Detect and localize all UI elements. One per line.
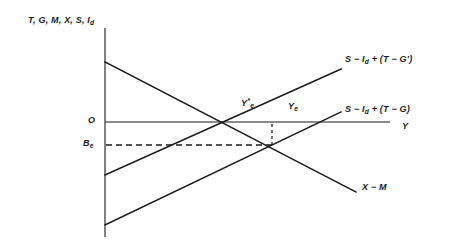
y-axis-caption-subscript: d: [90, 19, 94, 26]
balance-label: Be: [83, 139, 94, 148]
balance-label-base: B: [83, 138, 90, 148]
curve-label-s-id-t-gprime: S − Id + (T − G′): [345, 55, 412, 64]
y-axis-caption: T, G, M, X, S, Id: [28, 16, 94, 25]
curve-gp-prefix: S − I: [345, 54, 365, 64]
x-axis-label: Y: [402, 122, 408, 131]
curve-label-s-id-t-g: S − Id + (T − G): [345, 105, 410, 114]
curve-g-prefix: S − I: [345, 104, 365, 114]
diagram-canvas: [0, 0, 461, 251]
curve-s-id-t-g: [105, 112, 341, 225]
curve-x-minus-m: [105, 62, 356, 192]
economics-diagram: T, G, M, X, S, Id O Be Y Y*e Ye S − Id +…: [0, 0, 461, 251]
equilibrium-label-y-e: Ye: [288, 102, 298, 111]
equilibrium-label-y-star-e: Y*e: [241, 99, 254, 108]
y-star-subscript: e: [250, 102, 254, 109]
y-axis-caption-base: T, G, M, X, S, I: [28, 15, 90, 25]
balance-label-subscript: e: [90, 142, 94, 149]
curve-gp-suffix: + (T − G′): [369, 54, 412, 64]
curve-gp-subscript: d: [365, 58, 369, 65]
curve-g-suffix: + (T − G): [369, 104, 410, 114]
origin-label: O: [88, 116, 95, 125]
y-e-subscript: e: [294, 105, 298, 112]
curve-xm-prefix: X − M: [362, 182, 387, 192]
curve-label-x-minus-m: X − M: [362, 183, 387, 192]
curve-g-subscript: d: [365, 108, 369, 115]
